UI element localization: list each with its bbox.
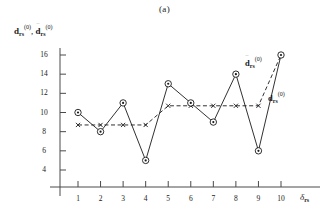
x-tick-marks: [78, 181, 281, 187]
circle-dot-marker: [165, 81, 171, 87]
y-tick-label: 10: [36, 108, 52, 117]
x-tick-label: 1: [70, 194, 86, 203]
circle-dot-marker: [120, 100, 126, 106]
x-tick-label: 4: [138, 194, 154, 203]
y-tick-label: 14: [36, 69, 52, 78]
x-tick-label: 8: [228, 194, 244, 203]
y-tick-label: 4: [36, 165, 52, 174]
series-d: [75, 52, 284, 164]
circle-dot-marker: [210, 119, 216, 125]
circle-dot-marker: [75, 109, 81, 115]
y-tick-label: 6: [36, 146, 52, 155]
axes: [50, 48, 320, 196]
figure-container: (a) drs(0), drs(0) δrs drs(0) drs(0) 468…: [0, 0, 329, 223]
x-tick-label: 10: [273, 194, 289, 203]
circle-dot-marker: [233, 71, 239, 77]
circle-dot-marker: [278, 52, 284, 58]
x-tick-label: 6: [183, 194, 199, 203]
x-tick-label: 9: [250, 194, 266, 203]
series-dtilde: [76, 53, 283, 127]
dtilde-line: [78, 55, 281, 125]
x-tick-label: 2: [93, 194, 109, 203]
circle-dot-marker: [255, 148, 261, 154]
y-tick-marks: [60, 55, 66, 170]
y-tick-label: 8: [36, 127, 52, 136]
cross-marker: [166, 104, 170, 108]
circle-dot-marker: [97, 128, 103, 134]
d-line: [78, 55, 281, 160]
circle-dot-marker: [188, 100, 194, 106]
x-tick-label: 7: [205, 194, 221, 203]
y-tick-label: 12: [36, 88, 52, 97]
circle-dot-marker: [142, 157, 148, 163]
y-tick-label: 16: [36, 50, 52, 59]
x-tick-label: 3: [115, 194, 131, 203]
x-tick-label: 5: [160, 194, 176, 203]
